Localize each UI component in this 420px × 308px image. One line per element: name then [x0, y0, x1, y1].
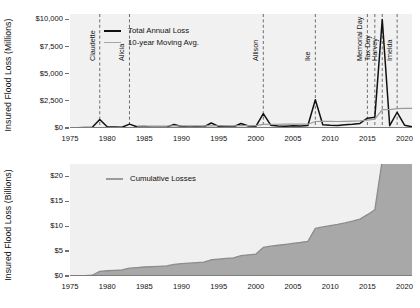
- x-tick-label: 1985: [136, 128, 153, 143]
- x-tick-label: 2000: [247, 128, 264, 143]
- x-tick-label: 1990: [173, 128, 190, 143]
- legend-label: Cumulative Losses: [130, 174, 196, 183]
- cumulative-loss-panel: Insured Flood Loss (Billions) $0$5$10$15…: [0, 152, 420, 298]
- x-tick-label: 2020: [396, 128, 413, 143]
- top-plot-area: $0$2,500$5,000$7,500$10,000 197519801985…: [70, 14, 412, 128]
- event-label-imelda: Imelda: [385, 39, 394, 61]
- figure-caption-clipped: [0, 300, 420, 308]
- x-tick-label: 2010: [322, 128, 339, 143]
- event-label-harvey: Harvey: [370, 38, 379, 61]
- x-tick-label: 1980: [99, 128, 116, 143]
- flood-loss-figure: Insured Flood Loss (Millions) $0$2,500$5…: [0, 0, 420, 308]
- x-tick-label: 1990: [173, 276, 190, 291]
- bottom-legend: Cumulative Losses: [106, 174, 196, 183]
- top-legend: Total Annual Loss 10-year Moving Avg.: [104, 26, 199, 47]
- event-label-claudette: Claudette: [88, 30, 97, 61]
- x-tick-label: 1975: [62, 128, 79, 143]
- x-tick-label: 2005: [285, 276, 302, 291]
- annual-loss-panel: Insured Flood Loss (Millions) $0$2,500$5…: [0, 0, 420, 150]
- bottom-y-axis-title: Insured Flood Loss (Billions): [0, 152, 16, 298]
- x-tick-label: 2000: [247, 276, 264, 291]
- x-tick-label: 1985: [136, 276, 153, 291]
- x-tick-label: 2020: [396, 276, 413, 291]
- x-tick-label: 1995: [210, 276, 227, 291]
- legend-swatch-line: [106, 178, 123, 180]
- x-tick-label: 1975: [62, 276, 79, 291]
- x-tick-label: 2015: [359, 276, 376, 291]
- event-label-allison: Allison: [251, 40, 260, 61]
- legend-item-moving-average: 10-year Moving Avg.: [104, 38, 199, 47]
- x-tick-label: 1995: [210, 128, 227, 143]
- x-tick-label: 2015: [359, 128, 376, 143]
- legend-swatch-line: [104, 42, 121, 43]
- legend-item-total-annual-loss: Total Annual Loss: [104, 26, 199, 35]
- legend-swatch-line: [104, 30, 121, 32]
- legend-item-cumulative-losses: Cumulative Losses: [106, 174, 196, 183]
- legend-label: Total Annual Loss: [128, 26, 189, 35]
- x-tick-label: 2005: [285, 128, 302, 143]
- legend-label: 10-year Moving Avg.: [128, 38, 199, 47]
- event-label-ike: Ike: [303, 51, 312, 61]
- x-tick-label: 1980: [99, 276, 116, 291]
- top-y-axis-title: Insured Flood Loss (Millions): [0, 0, 16, 150]
- x-tick-label: 2010: [322, 276, 339, 291]
- bottom-plot-area: $0$5$10$15$20 19751980198519901995200020…: [70, 164, 412, 276]
